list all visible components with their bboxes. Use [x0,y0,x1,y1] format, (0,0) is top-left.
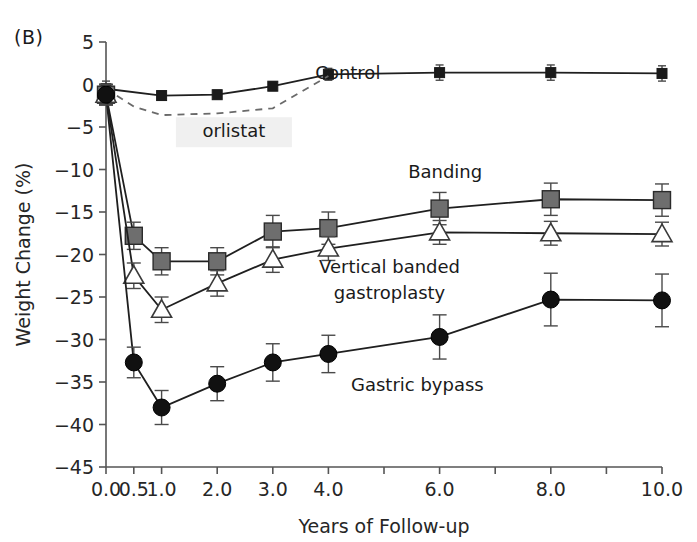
figure-panel-b: (B) 50−5−10−15−20−25−30−35−40−450.00.51.… [0,0,697,542]
y-tick-label: 5 [82,31,94,53]
data-point-marker [435,68,445,78]
data-point-marker [153,399,170,416]
series-line [106,73,662,96]
y-tick-label: −35 [54,371,94,393]
data-point-marker [652,224,672,242]
y-tick-label: −15 [54,201,94,223]
y-tick-label: −45 [54,456,94,478]
data-point-marker [654,292,671,309]
x-tick-label: 3.0 [258,478,288,500]
data-point-marker [320,220,337,237]
data-point-marker [320,345,337,362]
series-label-gastric-bypass: Gastric bypass [351,374,484,395]
data-point-marker [654,192,671,209]
data-point-marker [264,223,281,240]
series-label-banding: Banding [408,161,482,182]
data-point-marker [542,291,559,308]
data-point-marker [541,223,561,241]
x-tick-label: 6.0 [424,478,454,500]
series-label-vertical-banded-gastroplasty: Vertical banded [319,256,460,277]
series-label-line2: gastroplasty [334,282,446,303]
y-tick-label: −30 [54,329,94,351]
series-banding [98,85,671,275]
x-tick-label: 0.5 [119,478,149,500]
data-point-marker [207,273,227,291]
data-point-marker [657,68,667,78]
x-tick-label: 1.0 [146,478,176,500]
x-tick-label: 4.0 [313,478,343,500]
data-point-marker [153,253,170,270]
data-point-marker [431,328,448,345]
data-point-marker [264,354,281,371]
data-point-marker [209,375,226,392]
data-point-marker [542,191,559,208]
data-point-marker [124,266,144,284]
y-tick-label: −5 [66,116,94,138]
y-tick-label: −20 [54,244,94,266]
y-axis-title: Weight Change (%) [12,163,34,347]
series-control [101,65,667,101]
x-tick-label: 2.0 [202,478,232,500]
data-point-marker [125,354,142,371]
y-tick-label: −25 [54,286,94,308]
data-point-marker [546,68,556,78]
data-point-marker [98,86,115,103]
series-label-control: Control [315,62,380,83]
data-point-marker [268,81,278,91]
x-tick-label: 8.0 [536,478,566,500]
data-point-marker [157,91,167,101]
x-axis-title: Years of Follow-up [297,515,469,537]
data-point-marker [212,90,222,100]
x-tick-label: 10.0 [641,478,683,500]
series-label-orlistat: orlistat [202,120,265,141]
data-point-marker [431,200,448,217]
y-tick-label: 0 [82,74,94,96]
y-tick-label: −10 [54,159,94,181]
x-tick-label: 0.0 [91,478,121,500]
data-point-marker [209,253,226,270]
chart-canvas: 50−5−10−15−20−25−30−35−40−450.00.51.02.0… [0,0,697,542]
y-tick-label: −40 [54,414,94,436]
